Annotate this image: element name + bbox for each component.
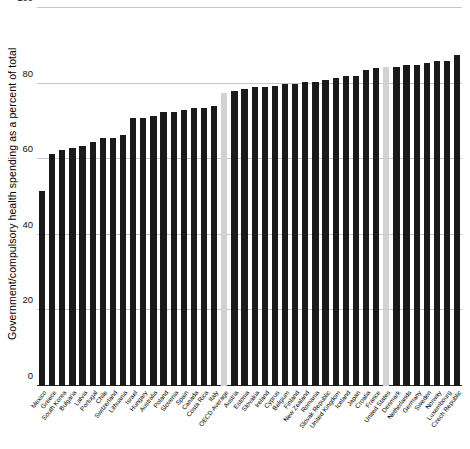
y-tick-label-80: 80 <box>22 67 33 78</box>
bar <box>454 55 460 386</box>
bar <box>322 80 328 386</box>
bar-slot <box>78 8 88 386</box>
bar <box>110 138 116 386</box>
bar <box>120 135 126 386</box>
bar-slot <box>47 8 57 386</box>
y-tick-label-20: 20 <box>22 294 33 305</box>
bar-slot <box>118 8 128 386</box>
y-axis-title: Government/compulsory health spending as… <box>6 0 18 40</box>
bar <box>403 65 409 386</box>
bar <box>272 86 278 387</box>
bar-slot <box>260 8 270 386</box>
bar-slot <box>361 8 371 386</box>
bar <box>39 191 45 386</box>
bar-slot <box>128 8 138 386</box>
bar-slot <box>391 8 401 386</box>
bar-slot <box>402 8 412 386</box>
bar-slot <box>98 8 108 386</box>
bar-slot <box>321 8 331 386</box>
bar-slot <box>452 8 462 386</box>
bar <box>434 61 440 386</box>
bar <box>343 76 349 386</box>
bar <box>393 67 399 386</box>
bar-slot <box>240 8 250 386</box>
y-tick-label-60: 60 <box>22 143 33 154</box>
bar-slot <box>189 8 199 386</box>
bar <box>181 110 187 386</box>
x-axis-labels: MexicoGreeceSouth KoreaBulgariaLatviaPor… <box>37 388 462 449</box>
bar <box>201 108 207 386</box>
bar <box>333 78 339 386</box>
bar-slot <box>108 8 118 386</box>
bar <box>79 146 85 386</box>
bar <box>59 150 65 386</box>
bar-slot <box>412 8 422 386</box>
bar-slot <box>37 8 47 386</box>
bar-slot <box>432 8 442 386</box>
bar-slot <box>351 8 361 386</box>
bar <box>444 61 450 386</box>
y-tick-label-40: 40 <box>22 218 33 229</box>
bar <box>160 112 166 386</box>
bar-slot <box>67 8 77 386</box>
bar-slot <box>280 8 290 386</box>
bar <box>171 112 177 386</box>
bar-slot <box>371 8 381 386</box>
x-label-slot: Czech Republic <box>452 388 462 449</box>
plot-area: 020406080100 <box>37 8 462 386</box>
bar-slot <box>57 8 67 386</box>
bar-slot <box>270 8 280 386</box>
bar <box>69 148 75 386</box>
bar <box>90 142 96 386</box>
bar-chart: Government/compulsory health spending as… <box>0 0 470 449</box>
bar <box>302 82 308 386</box>
bar-slot <box>300 8 310 386</box>
bar-slot <box>229 8 239 386</box>
bar <box>211 106 217 386</box>
bar-slot <box>88 8 98 386</box>
bar-slot <box>442 8 452 386</box>
bar <box>292 84 298 386</box>
bar-slot <box>422 8 432 386</box>
bar-slot <box>381 8 391 386</box>
bar <box>231 91 237 386</box>
bar-slot <box>290 8 300 386</box>
bar-slot <box>159 8 169 386</box>
bar <box>424 63 430 386</box>
bar <box>353 76 359 386</box>
bar-slot <box>169 8 179 386</box>
bar-slot <box>219 8 229 386</box>
bar <box>282 84 288 386</box>
y-tick-label-100: 100 <box>17 0 33 3</box>
bar-slot <box>341 8 351 386</box>
bar <box>241 89 247 386</box>
bar-slot <box>148 8 158 386</box>
y-tick-label-0: 0 <box>28 370 33 381</box>
bar <box>262 87 268 386</box>
bar-slot <box>209 8 219 386</box>
bar-slot <box>331 8 341 386</box>
bar-slot <box>199 8 209 386</box>
bar <box>191 108 197 386</box>
bar <box>150 116 156 386</box>
bar <box>414 65 420 386</box>
bar-series <box>37 8 462 386</box>
bar <box>49 154 55 386</box>
bar <box>221 93 227 386</box>
bar-slot <box>138 8 148 386</box>
bar <box>130 118 136 386</box>
bar <box>252 87 258 386</box>
bar-slot <box>250 8 260 386</box>
bar <box>312 82 318 386</box>
bar-slot <box>310 8 320 386</box>
bar <box>363 70 369 386</box>
bar <box>373 68 379 386</box>
bar <box>383 67 389 386</box>
bar <box>140 118 146 386</box>
bar-slot <box>179 8 189 386</box>
bar <box>100 138 106 386</box>
y-axis-title-text: Government/compulsory health spending as… <box>6 48 18 340</box>
